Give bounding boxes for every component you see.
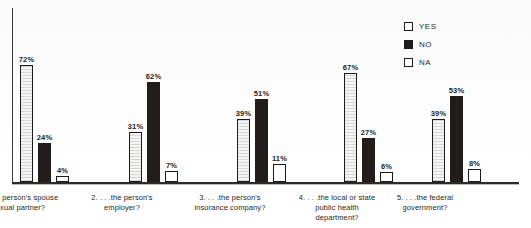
bar-4-na[interactable]: 6%: [380, 163, 393, 182]
x-axis-label-line: 3. . . .the person's: [176, 193, 284, 203]
x-axis-label-line: or sexual partner?: [0, 203, 68, 213]
bar-value-label: 31%: [128, 123, 144, 131]
bar-rect[interactable]: [255, 99, 268, 182]
bar-value-label: 4%: [57, 167, 68, 175]
bar-5-yes[interactable]: 39%: [432, 110, 445, 182]
x-axis-label-5: 5. . . .the federalgovernment?: [371, 193, 479, 213]
bar-rect[interactable]: [344, 73, 357, 182]
bar-2-no[interactable]: 62%: [147, 73, 160, 182]
bar-value-label: 6%: [381, 163, 392, 171]
bar-group-bars: 31%62%7%: [129, 8, 178, 182]
bar-value-label: 67%: [343, 64, 359, 72]
bar-value-label: 8%: [469, 160, 480, 168]
bar-rect[interactable]: [147, 82, 160, 182]
bar-rect[interactable]: [450, 96, 463, 182]
x-axis-label-1: 1. . . .the person's spouseor sexual par…: [0, 193, 68, 213]
bar-4-no[interactable]: 27%: [362, 129, 375, 182]
bar-group-bars: 39%53%8%: [432, 8, 481, 182]
bar-3-yes[interactable]: 39%: [237, 110, 250, 182]
bar-rect[interactable]: [362, 138, 375, 182]
top-caption-cutoff: [300, 0, 440, 5]
x-axis-label-line: 1. . . .the person's spouse: [0, 193, 68, 203]
bar-chart-figure: YESNONA 72%24%4%31%62%7%39%51%11%67%27%6…: [0, 0, 531, 228]
bar-group-bars: 67%27%6%: [344, 8, 393, 182]
bar-2-na[interactable]: 7%: [165, 162, 178, 182]
bar-rect[interactable]: [20, 65, 33, 182]
bar-value-label: 72%: [19, 56, 35, 64]
bar-group-bars: 39%51%11%: [237, 8, 286, 182]
bar-5-no[interactable]: 53%: [450, 87, 463, 182]
x-axis-label-line: department?: [283, 213, 391, 223]
bar-1-yes[interactable]: 72%: [20, 56, 33, 182]
bar-rect[interactable]: [468, 169, 481, 182]
x-axis-label-line: employer?: [68, 203, 176, 213]
x-axis-label-line: 5. . . .the federal: [371, 193, 479, 203]
bar-2-yes[interactable]: 31%: [129, 123, 142, 182]
bar-value-label: 7%: [166, 162, 177, 170]
bar-rect[interactable]: [129, 132, 142, 182]
bar-rect[interactable]: [273, 164, 286, 182]
bar-3-na[interactable]: 11%: [273, 155, 286, 182]
x-axis-label-2: 2. . . .the person'semployer?: [68, 193, 176, 213]
bar-rect[interactable]: [432, 119, 445, 182]
bar-value-label: 39%: [431, 110, 447, 118]
bar-1-na[interactable]: 4%: [56, 167, 69, 182]
bar-value-label: 24%: [37, 134, 53, 142]
x-axis-label-3: 3. . . .the person'sinsurance company?: [176, 193, 284, 213]
bar-rect[interactable]: [38, 143, 51, 182]
bar-value-label: 62%: [146, 73, 162, 81]
bar-rect[interactable]: [56, 176, 69, 182]
x-axis-label-line: insurance company?: [176, 203, 284, 213]
bar-group-bars: 72%24%4%: [20, 8, 69, 182]
bar-value-label: 53%: [449, 87, 465, 95]
bar-rect[interactable]: [237, 119, 250, 182]
bar-rect[interactable]: [165, 171, 178, 182]
bar-1-no[interactable]: 24%: [38, 134, 51, 182]
bar-4-yes[interactable]: 67%: [344, 64, 357, 182]
bar-value-label: 27%: [361, 129, 377, 137]
plot-area: 72%24%4%31%62%7%39%51%11%67%27%6%39%53%8…: [12, 8, 519, 182]
bar-value-label: 51%: [254, 90, 270, 98]
x-axis-label-line: government?: [371, 203, 479, 213]
bar-3-no[interactable]: 51%: [255, 90, 268, 182]
bar-value-label: 39%: [236, 110, 252, 118]
x-axis-baseline-shadow: [12, 184, 519, 185]
bar-value-label: 11%: [272, 155, 287, 163]
x-axis-label-line: 2. . . .the person's: [68, 193, 176, 203]
bar-rect[interactable]: [380, 172, 393, 182]
bar-5-na[interactable]: 8%: [468, 160, 481, 182]
